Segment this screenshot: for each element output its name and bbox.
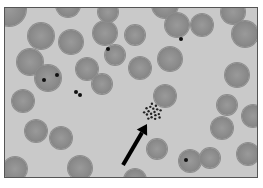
micrograph-frame	[4, 7, 258, 178]
granule-cluster	[143, 103, 162, 121]
arrow-icon	[5, 8, 258, 178]
